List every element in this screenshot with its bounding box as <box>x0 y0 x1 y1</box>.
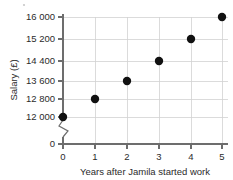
data-point <box>187 35 195 43</box>
horizontal-gridlines <box>63 17 228 117</box>
scan-artifact-speck <box>23 4 25 6</box>
data-point <box>123 77 131 85</box>
data-point <box>218 13 226 21</box>
x-axis-title: Years after Jamila started work <box>80 166 210 177</box>
y-tick-label-origin: 0 <box>50 138 55 149</box>
y-axis-break-icon <box>59 120 68 137</box>
data-points <box>59 13 226 121</box>
y-tick-label-15200: 15 200 <box>26 33 55 44</box>
y-tick-label-16000: 16 000 <box>26 11 55 22</box>
chart-canvas: 16 000 15 200 14 400 13 600 12 800 12 00… <box>0 0 233 180</box>
vertical-gridlines <box>95 17 222 144</box>
x-tick-label-3: 3 <box>156 151 161 162</box>
y-tick-label-14400: 14 400 <box>26 55 55 66</box>
x-tick-label-4: 4 <box>188 151 193 162</box>
x-tick-label-2: 2 <box>124 151 129 162</box>
y-tick-label-13600: 13 600 <box>26 75 55 86</box>
y-tick-marks <box>58 17 63 144</box>
x-tick-labels: 0 1 2 3 4 5 <box>60 151 224 162</box>
x-tick-label-1: 1 <box>92 151 97 162</box>
data-point <box>155 57 163 65</box>
y-tick-labels: 16 000 15 200 14 400 13 600 12 800 12 00… <box>26 11 55 149</box>
x-tick-label-0: 0 <box>60 151 65 162</box>
data-point <box>59 113 67 121</box>
x-tick-label-5: 5 <box>219 151 224 162</box>
y-tick-label-12000: 12 000 <box>26 111 55 122</box>
y-axis-title: Salary (£) <box>8 59 19 100</box>
data-point <box>91 95 99 103</box>
x-tick-marks <box>63 144 222 149</box>
y-tick-label-12800: 12 800 <box>26 93 55 104</box>
salary-scatter-chart: 16 000 15 200 14 400 13 600 12 800 12 00… <box>0 0 233 180</box>
